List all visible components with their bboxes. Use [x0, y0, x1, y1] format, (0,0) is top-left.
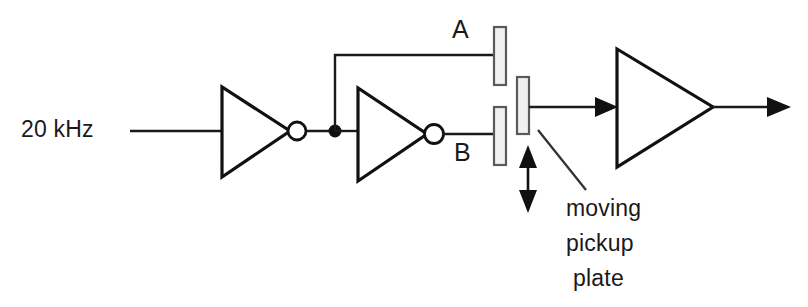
amplifier-triangle — [617, 49, 713, 167]
plate-a-label: A — [452, 17, 469, 42]
inverter-1-triangle — [222, 87, 290, 177]
amplifier-input-arrowhead — [595, 97, 618, 117]
inverter-2-bubble — [425, 125, 444, 144]
output-arrowhead — [767, 97, 791, 117]
inverter-2-triangle — [358, 88, 427, 181]
motion-arrow-head-down — [519, 190, 537, 213]
moving-pickup-plate — [517, 77, 529, 134]
circuit-diagram: 20 kHz A B moving pickup plate — [0, 0, 808, 307]
plate-b — [494, 107, 506, 165]
plate-b-label: B — [454, 140, 471, 165]
moving-pickup-plate-label-line-3: plate — [573, 267, 624, 290]
moving-pickup-plate-label-line-1: moving — [566, 197, 641, 220]
moving-pickup-plate-label-line-2: pickup — [566, 232, 634, 255]
inverter-1-bubble — [288, 122, 306, 140]
plate-a — [494, 27, 506, 85]
motion-arrow-head-up — [519, 145, 537, 168]
annotation-leader-line — [538, 130, 586, 190]
circuit-schematic-canvas — [0, 0, 808, 307]
input-frequency-label: 20 kHz — [21, 118, 94, 141]
